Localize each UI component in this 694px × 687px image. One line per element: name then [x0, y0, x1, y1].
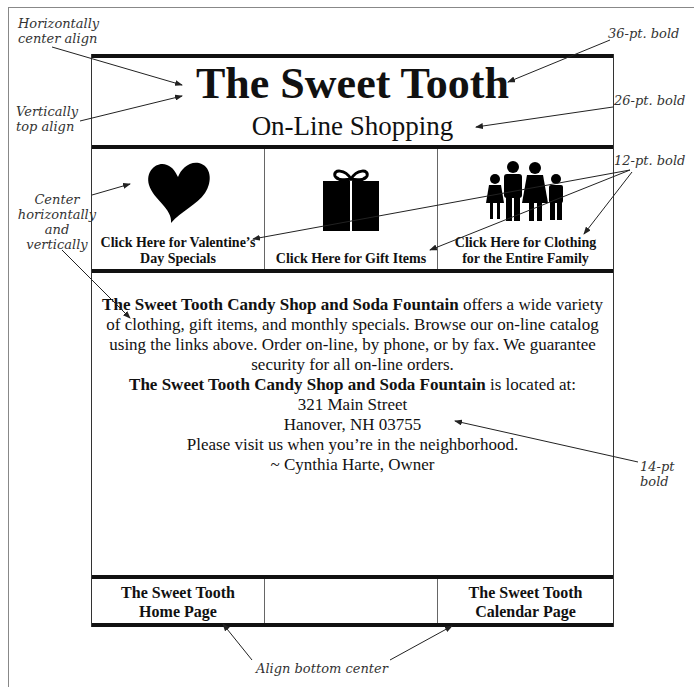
shop-name-bold-2: The Sweet Tooth Candy Shop and Soda Foun… [129, 375, 486, 394]
content-text: The Sweet Tooth Candy Shop and Soda Foun… [92, 295, 613, 475]
annotation-align-bottom: Align bottom center [256, 661, 388, 676]
annotation-14pt: 14-pt bold [640, 459, 694, 489]
page-frame-left [8, 7, 9, 687]
nav-clothing-label: Click Here for Clothing for the Entire F… [455, 235, 596, 267]
annotation-26pt: 26-pt. bold [614, 93, 685, 108]
annotation-36pt: 36-pt. bold [608, 26, 679, 41]
location-line: The Sweet Tooth Candy Shop and Soda Foun… [100, 375, 605, 395]
nav-clothing-link[interactable]: Click Here for Clothing for the Entire F… [438, 149, 613, 269]
address-line-2: Hanover, NH 03755 [100, 415, 605, 435]
nav-gift-items-link[interactable]: Click Here for Gift Items [265, 149, 438, 269]
banner-row: The Sweet Tooth On-Line Shopping [92, 54, 613, 145]
footer-row: The Sweet Tooth Home Page The Sweet Toot… [92, 575, 613, 627]
visit-line: Please visit us when you’re in the neigh… [100, 435, 605, 455]
page-frame-top [8, 7, 694, 8]
annotation-vertical-top: Vertically top align [16, 104, 78, 134]
banner-title: The Sweet Tooth [92, 60, 613, 108]
content-row: The Sweet Tooth Candy Shop and Soda Foun… [92, 269, 613, 575]
nav-valentines-label: Click Here for Valentine’s Day Specials [101, 235, 256, 267]
shop-name-bold: The Sweet Tooth Candy Shop and Soda Foun… [102, 295, 459, 314]
nav-gift-items-label: Click Here for Gift Items [276, 251, 426, 267]
home-page-link[interactable]: The Sweet Tooth Home Page [92, 579, 265, 623]
banner-subtitle: On-Line Shopping [92, 110, 613, 142]
annotation-horizontal-center: Horizontally center align [18, 16, 99, 46]
calendar-page-link[interactable]: The Sweet Tooth Calendar Page [438, 579, 613, 623]
gift-icon [319, 149, 383, 251]
heart-icon [143, 149, 213, 235]
address-line-1: 321 Main Street [100, 395, 605, 415]
nav-row: Click Here for Valentine’s Day Specials … [92, 145, 613, 269]
annotation-12pt: 12-pt. bold [614, 153, 685, 168]
footer-empty-cell [265, 579, 438, 623]
web-page-layout-table: The Sweet Tooth On-Line Shopping Click H… [91, 54, 614, 627]
intro-paragraph: The Sweet Tooth Candy Shop and Soda Foun… [100, 295, 605, 375]
family-icon [486, 149, 566, 235]
signature-line: ~ Cynthia Harte, Owner [100, 455, 605, 475]
annotation-center-hv: Center horizontally and vertically [14, 192, 100, 252]
nav-valentines-link[interactable]: Click Here for Valentine’s Day Specials [92, 149, 265, 269]
